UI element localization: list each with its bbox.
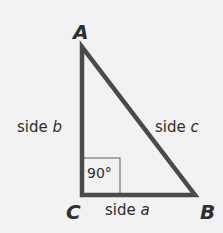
side-b-var: b: [53, 118, 63, 136]
side-a-word: side: [105, 201, 136, 219]
triangle-diagram: [0, 0, 223, 233]
side-c-label: side c: [155, 118, 199, 136]
side-b-label: side b: [17, 118, 62, 136]
side-a-label: side a: [105, 201, 150, 219]
side-c-word: side: [155, 118, 186, 136]
side-a-var: a: [141, 201, 150, 219]
vertex-a-label: A: [73, 20, 88, 44]
right-angle-label: 90°: [87, 165, 112, 181]
vertex-c-label: C: [66, 200, 81, 224]
side-b-word: side: [17, 118, 48, 136]
side-c-var: c: [191, 118, 199, 136]
vertex-b-label: B: [200, 200, 215, 224]
